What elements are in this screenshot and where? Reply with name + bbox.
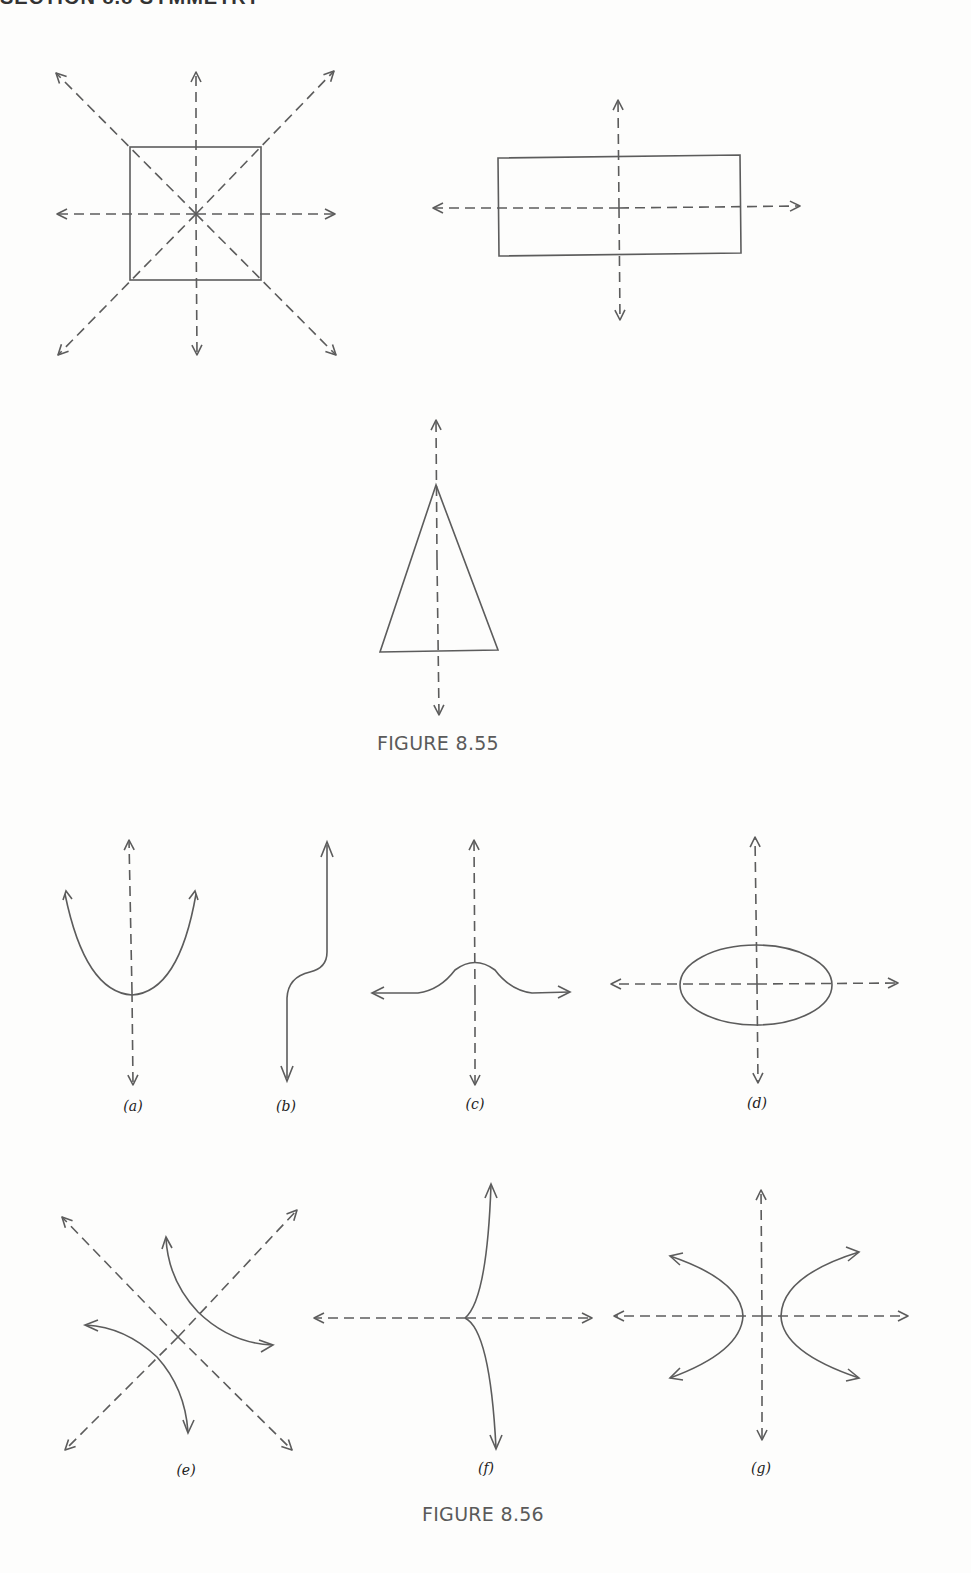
rectangle-symmetry-figure — [433, 100, 800, 320]
bell-curve — [373, 963, 570, 994]
panel-a-parabola — [63, 840, 198, 1085]
triangle-shape — [380, 485, 498, 652]
panel-label-a: (a) — [123, 1098, 142, 1114]
panel-g-hyperbola — [614, 1190, 908, 1440]
panel-label-d: (d) — [747, 1095, 767, 1111]
square-symmetry-figure — [56, 71, 336, 355]
cusp-upper-branch — [465, 1185, 491, 1318]
panel-label-g: (g) — [751, 1460, 771, 1476]
panel-label-f: (f) — [478, 1460, 494, 1476]
rectangle-axes — [433, 100, 800, 320]
cusp-lower-branch — [465, 1318, 496, 1448]
triangle-axis — [436, 420, 439, 715]
figure-8-56-caption: FIGURE 8.56 — [422, 1503, 544, 1525]
square-axes — [56, 71, 336, 355]
figure-8-55-caption: FIGURE 8.55 — [377, 732, 499, 754]
panel-c-bell-curve — [372, 840, 570, 1085]
triangle-symmetry-figure — [380, 420, 498, 715]
hyperbola-left-branch — [670, 1256, 743, 1378]
panel-f-cusp — [314, 1184, 592, 1449]
panel-d-ellipse — [611, 837, 898, 1083]
textbook-page: SECTION 8.8 SYMMETRY — [0, 0, 971, 1573]
panel-label-c: (c) — [466, 1096, 485, 1112]
panel-e-rotated-hyperbola — [62, 1210, 297, 1450]
panel-label-e: (e) — [176, 1462, 195, 1478]
hyperbola-branch-lower — [86, 1325, 188, 1432]
panel-label-b: (b) — [276, 1098, 296, 1114]
ellipse-curve — [680, 945, 832, 1025]
figures-canvas — [0, 0, 971, 1573]
s-curve — [287, 845, 327, 1078]
hyperbola-right-branch — [781, 1252, 859, 1378]
panel-b-s-curve — [281, 842, 333, 1081]
